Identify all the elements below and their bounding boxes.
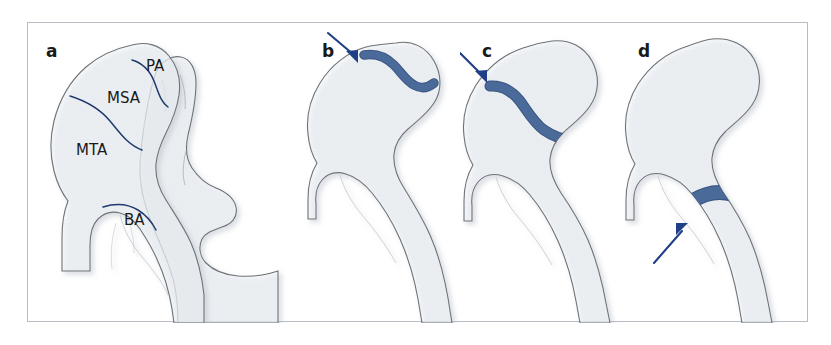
panel-a: a PA MSA MTA BA xyxy=(28,23,298,323)
panel-label-b: b xyxy=(322,43,334,60)
panel-label-d: d xyxy=(638,43,650,60)
panel-b-artwork xyxy=(300,23,460,323)
zone-label-msa: MSA xyxy=(107,91,140,106)
panel-label-a: a xyxy=(46,43,57,60)
zone-label-mta: MTA xyxy=(76,143,107,158)
panel-d: d xyxy=(620,23,807,323)
panel-label-c: c xyxy=(482,43,492,60)
figure-frame: a PA MSA MTA BA xyxy=(27,22,808,322)
panel-c: c xyxy=(460,23,620,323)
panel-c-artwork xyxy=(460,23,620,323)
zone-label-ba: BA xyxy=(124,213,145,228)
femur-shape xyxy=(626,39,773,323)
zone-label-pa: PA xyxy=(146,59,164,74)
figure-root: a PA MSA MTA BA xyxy=(0,0,831,345)
panel-d-artwork xyxy=(620,23,807,323)
arrow-icon xyxy=(654,223,688,263)
panel-b: b xyxy=(300,23,460,323)
